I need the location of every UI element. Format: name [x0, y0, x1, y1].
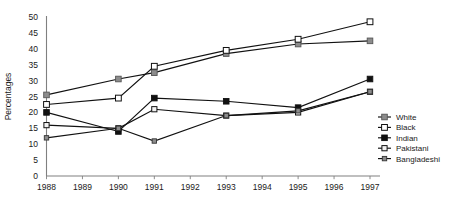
y-axis-title: Percentages [3, 73, 13, 121]
y-tick-label: 50 [29, 12, 39, 22]
y-tick-label: 35 [29, 60, 39, 70]
y-tick-label: 25 [29, 92, 39, 102]
x-axis-ticks: 1988198919901991199219931994199519961997 [37, 176, 380, 192]
legend-marker-black [382, 125, 388, 131]
data-point-marker [295, 36, 301, 42]
series-line [47, 22, 371, 105]
data-point-marker [152, 107, 157, 112]
x-tick-label: 1993 [217, 182, 236, 192]
data-point-marker [44, 136, 48, 140]
y-tick-label: 45 [29, 28, 39, 38]
data-point-marker [151, 63, 157, 69]
chart-legend: WhiteBlackIndianPakistaniBangladeshi [378, 113, 440, 164]
legend-marker-pakistani [382, 146, 387, 151]
data-point-marker [44, 110, 50, 116]
axis-lines [47, 16, 381, 176]
y-axis-ticks: 05101520253035404550 [29, 12, 39, 181]
y-tick-label: 10 [29, 139, 39, 149]
data-point-marker [223, 98, 229, 104]
legend-marker-indian [382, 135, 388, 141]
data-point-marker [152, 70, 158, 76]
x-tick-label: 1994 [253, 182, 272, 192]
x-tick-label: 1989 [73, 182, 92, 192]
data-point-marker [367, 19, 373, 25]
data-point-marker [44, 102, 50, 108]
legend-label-white[interactable]: White [396, 113, 417, 122]
legend-marker-white [382, 114, 388, 120]
x-tick-label: 1997 [361, 182, 380, 192]
series-layer [44, 19, 373, 143]
data-point-marker [115, 95, 121, 101]
data-point-marker [296, 109, 300, 113]
data-point-marker [223, 47, 229, 53]
series-line [47, 92, 371, 141]
data-point-marker [116, 126, 120, 130]
x-tick-label: 1996 [325, 182, 344, 192]
y-tick-label: 0 [33, 171, 38, 181]
x-tick-label: 1991 [145, 182, 164, 192]
y-tick-label: 40 [29, 44, 39, 54]
x-tick-label: 1988 [37, 182, 56, 192]
x-tick-label: 1995 [289, 182, 308, 192]
legend-label-bangladeshi[interactable]: Bangladeshi [396, 155, 440, 164]
data-point-marker [152, 95, 158, 101]
data-point-marker [224, 113, 228, 117]
line-chart: Percentages 05101520253035404550 1988198… [0, 0, 456, 204]
data-point-marker [116, 76, 122, 82]
y-tick-label: 5 [33, 155, 38, 165]
data-point-marker [367, 38, 373, 44]
data-point-marker [44, 92, 50, 98]
legend-marker-bangladeshi [382, 156, 386, 160]
y-tick-label: 20 [29, 107, 39, 117]
y-tick-label: 30 [29, 76, 39, 86]
series-line [47, 41, 371, 95]
legend-label-black[interactable]: Black [396, 123, 417, 132]
x-tick-label: 1990 [109, 182, 128, 192]
series-line [47, 92, 371, 129]
y-tick-label: 15 [29, 123, 39, 133]
data-point-marker [152, 139, 156, 143]
chart-container: Percentages 05101520253035404550 1988198… [0, 0, 456, 204]
legend-label-indian[interactable]: Indian [396, 134, 418, 143]
data-point-marker [367, 76, 373, 82]
data-point-marker [368, 90, 372, 94]
series-black [44, 19, 373, 107]
series-white [44, 38, 373, 98]
y-axis-label: Percentages [3, 73, 13, 121]
legend-label-pakistani[interactable]: Pakistani [396, 144, 429, 153]
x-tick-label: 1992 [181, 182, 200, 192]
data-point-marker [44, 123, 49, 128]
